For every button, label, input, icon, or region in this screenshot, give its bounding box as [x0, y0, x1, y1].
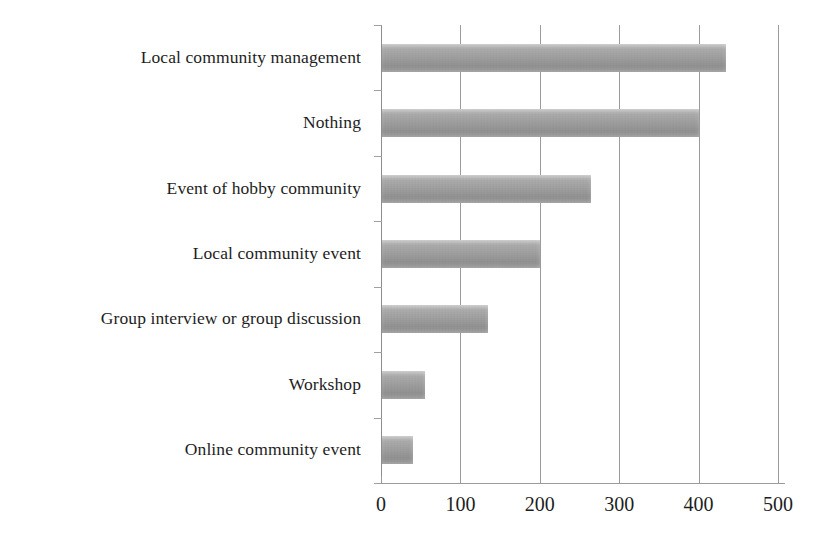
gridline-200	[540, 25, 541, 483]
value-axis-line	[374, 483, 785, 484]
category-axis-line	[381, 25, 382, 483]
category-label: Local community event	[1, 245, 361, 263]
bar	[381, 371, 425, 399]
category-tick	[374, 90, 382, 91]
bar	[381, 436, 413, 464]
bar	[381, 305, 488, 333]
bar	[381, 109, 699, 137]
bar	[381, 175, 591, 203]
category-label: Online community event	[1, 441, 361, 459]
category-tick	[374, 352, 382, 353]
value-tick-label-0: 0	[346, 494, 416, 514]
value-tick-label-400: 400	[664, 494, 734, 514]
plot-area	[381, 25, 778, 483]
value-tick-400	[699, 476, 700, 484]
gridline-500	[778, 25, 779, 483]
category-tick	[374, 287, 382, 288]
value-tick-100	[460, 476, 461, 484]
category-tick	[374, 221, 382, 222]
value-tick-200	[540, 476, 541, 484]
value-tick-label-300: 300	[584, 494, 654, 514]
value-tick-label-200: 200	[505, 494, 575, 514]
bar	[381, 240, 540, 268]
value-tick-0	[381, 476, 382, 484]
value-tick-label-500: 500	[743, 494, 813, 514]
category-tick	[374, 418, 382, 419]
value-tick-300	[619, 476, 620, 484]
gridline-400	[699, 25, 700, 483]
category-label: Nothing	[1, 114, 361, 132]
category-label: Group interview or group discussion	[1, 310, 361, 328]
category-tick	[374, 156, 382, 157]
category-label: Workshop	[1, 376, 361, 394]
bar	[381, 44, 726, 72]
value-tick-500	[778, 476, 779, 484]
value-tick-label-100: 100	[425, 494, 495, 514]
gridline-300	[619, 25, 620, 483]
category-axis-labels: Local community managementNothingEvent o…	[0, 25, 371, 483]
category-tick	[374, 25, 382, 26]
category-label: Event of hobby community	[1, 180, 361, 198]
category-label: Local community management	[1, 49, 361, 67]
bar-chart-figure: Local community managementNothingEvent o…	[0, 0, 834, 547]
